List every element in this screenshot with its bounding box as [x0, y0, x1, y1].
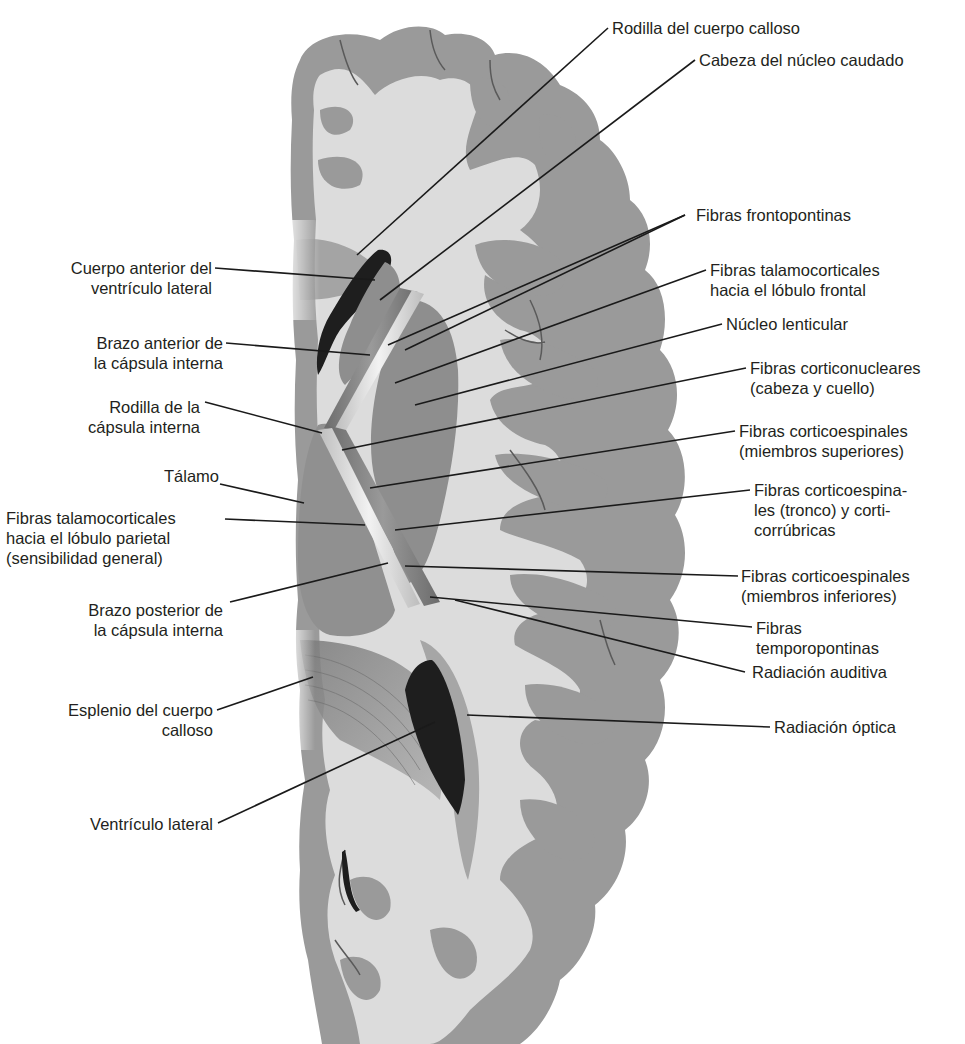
- label-fibras-corticoespinales-superiores: Fibras corticoespinales (miembros superi…: [739, 421, 908, 461]
- label-esplenio-cuerpo-calloso: Esplenio del cuerpo calloso: [68, 700, 213, 740]
- label-radiacion-auditiva: Radiación auditiva: [752, 662, 887, 682]
- label-fibras-talamocorticales-frontal: Fibras talamocorticales hacia el lóbulo …: [710, 260, 880, 300]
- label-brazo-anterior-capsula: Brazo anterior de la cápsula interna: [94, 333, 223, 373]
- label-radiacion-optica: Radiación óptica: [774, 717, 896, 737]
- label-cuerpo-anterior-ventriculo: Cuerpo anterior del ventrículo lateral: [71, 258, 212, 298]
- label-fibras-talamocorticales-parietal: Fibras talamocorticales hacia el lóbulo …: [6, 508, 176, 568]
- label-rodilla-cuerpo-calloso: Rodilla del cuerpo calloso: [612, 18, 800, 38]
- label-ventriculo-lateral: Ventrículo lateral: [90, 814, 213, 834]
- label-nucleo-lenticular: Núcleo lenticular: [726, 314, 848, 334]
- label-fibras-corticoespinales-tronco: Fibras corticoespina- les (tronco) y cor…: [754, 480, 907, 540]
- label-brazo-posterior-capsula: Brazo posterior de la cápsula interna: [88, 600, 223, 640]
- label-fibras-corticoespinales-inferiores: Fibras corticoespinales (miembros inferi…: [741, 566, 910, 606]
- brain-section-diagram: Rodilla del cuerpo calloso Cabeza del nú…: [0, 0, 965, 1044]
- label-talamo: Tálamo: [164, 466, 219, 486]
- label-fibras-frontopontinas: Fibras frontopontinas: [696, 205, 851, 225]
- label-fibras-corticonucleares: Fibras corticonucleares (cabeza y cuello…: [750, 358, 921, 398]
- label-cabeza-nucleo-caudado: Cabeza del núcleo caudado: [699, 50, 904, 70]
- label-fibras-temporopontinas: Fibras temporopontinas: [756, 618, 879, 658]
- label-rodilla-capsula: Rodilla de la cápsula interna: [88, 397, 200, 437]
